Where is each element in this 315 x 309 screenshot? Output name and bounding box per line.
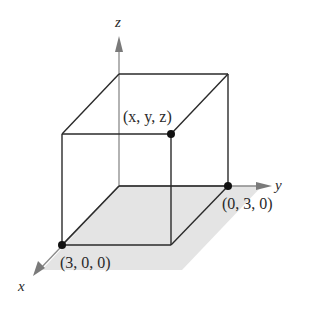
point-300-dot [58,241,66,249]
z-axis-arrow-icon [115,36,123,52]
box-diagram: z y x (x, y, z) (0, 3, 0) (3, 0, 0) [0,0,315,309]
point-xyz-dot [167,130,175,138]
z-axis-label: z [114,14,121,30]
point-300-label: (3, 0, 0) [60,254,111,272]
x-axis-arrow-icon [33,261,45,276]
point-xyz-label: (x, y, z) [123,108,172,126]
y-axis-arrow-icon [256,182,272,190]
y-axis-label: y [273,177,282,193]
point-030-dot [224,182,232,190]
point-030-label: (0, 3, 0) [222,195,273,213]
x-axis-label: x [17,278,25,294]
